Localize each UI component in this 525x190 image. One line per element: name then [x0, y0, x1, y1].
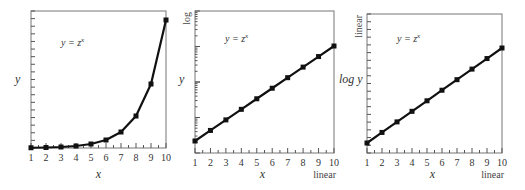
- x-tick-label: 3: [59, 152, 64, 163]
- data-line: [367, 48, 502, 143]
- data-point-marker: [74, 144, 79, 149]
- data-point-marker: [285, 75, 290, 80]
- data-point-marker: [59, 145, 64, 150]
- x-tick-label: 10: [161, 152, 171, 163]
- x-scale-label: linear: [313, 169, 336, 180]
- plot-frame: [195, 11, 334, 153]
- data-point-marker: [254, 96, 259, 101]
- x-tick-label: 6: [440, 157, 445, 168]
- data-point-marker: [380, 130, 385, 135]
- y-scale-label: log: [181, 12, 192, 25]
- x-tick-label: 8: [134, 152, 139, 163]
- x-tick-label: 4: [239, 157, 244, 168]
- x-tick-label: 8: [301, 157, 306, 168]
- right-chart-log-y: 12345678910y = zxxlog ylinearlinear: [339, 14, 507, 181]
- y-axis-label: y: [178, 72, 185, 86]
- x-tick-label: 4: [410, 157, 415, 168]
- plot-frame: [367, 14, 502, 153]
- data-point-marker: [332, 44, 337, 49]
- formula-annotation: y = zx: [224, 32, 249, 44]
- y-scale-label: linear: [353, 14, 364, 37]
- data-point-marker: [410, 109, 415, 114]
- data-point-marker: [104, 138, 109, 143]
- x-scale-label: linear: [481, 169, 504, 180]
- x-tick-label: 6: [104, 152, 109, 163]
- data-point-marker: [485, 56, 490, 61]
- x-tick-label: 7: [119, 152, 124, 163]
- data-point-marker: [164, 18, 169, 23]
- x-tick-label: 9: [485, 157, 490, 168]
- formula-annotation: y = zx: [396, 32, 421, 44]
- x-axis-label: x: [259, 167, 266, 181]
- x-tick-label: 1: [365, 157, 370, 168]
- x-tick-label: 1: [193, 157, 198, 168]
- x-tick-label: 2: [208, 157, 213, 168]
- x-tick-label: 2: [44, 152, 49, 163]
- x-tick-label: 8: [470, 157, 475, 168]
- data-point-marker: [425, 98, 430, 103]
- x-tick-label: 2: [380, 157, 385, 168]
- x-tick-label: 5: [425, 157, 430, 168]
- data-point-marker: [149, 82, 154, 87]
- data-point-marker: [316, 54, 321, 59]
- data-point-marker: [89, 142, 94, 147]
- x-tick-label: 1: [29, 152, 34, 163]
- data-point-marker: [365, 141, 370, 146]
- x-tick-label: 3: [223, 157, 228, 168]
- y-axis-label: log y: [339, 72, 363, 86]
- data-point-marker: [193, 139, 198, 144]
- data-point-marker: [223, 117, 228, 122]
- charts-canvas: 12345678910y = zxxy 12345678910y = zxxyl…: [0, 0, 525, 190]
- middle-chart-semilog: 12345678910y = zxxyloglinear: [178, 11, 339, 181]
- data-point-marker: [395, 119, 400, 124]
- data-point-marker: [239, 107, 244, 112]
- x-tick-label: 3: [395, 157, 400, 168]
- x-tick-label: 7: [455, 157, 460, 168]
- data-point-marker: [455, 77, 460, 82]
- x-tick-label: 4: [74, 152, 79, 163]
- data-point-marker: [301, 65, 306, 70]
- x-tick-label: 7: [285, 157, 290, 168]
- x-axis-label: x: [95, 167, 102, 181]
- data-point-marker: [440, 88, 445, 93]
- data-point-marker: [500, 46, 505, 51]
- x-tick-label: 9: [316, 157, 321, 168]
- x-tick-label: 6: [270, 157, 275, 168]
- data-point-marker: [29, 145, 34, 150]
- data-point-marker: [134, 114, 139, 119]
- x-tick-label: 5: [254, 157, 259, 168]
- x-tick-label: 10: [329, 157, 339, 168]
- left-chart-linear: 12345678910y = zxxy: [14, 11, 171, 181]
- y-axis-label: y: [14, 72, 21, 86]
- data-point-marker: [44, 145, 49, 150]
- x-tick-label: 5: [89, 152, 94, 163]
- data-line: [31, 20, 166, 148]
- plot-frame: [31, 11, 166, 148]
- x-tick-label: 10: [497, 157, 507, 168]
- x-axis-label: x: [429, 167, 436, 181]
- data-line: [195, 46, 334, 141]
- data-point-marker: [119, 130, 124, 135]
- data-point-marker: [470, 67, 475, 72]
- data-point-marker: [208, 128, 213, 133]
- data-point-marker: [270, 86, 275, 91]
- x-tick-label: 9: [149, 152, 154, 163]
- formula-annotation: y = zx: [60, 36, 85, 48]
